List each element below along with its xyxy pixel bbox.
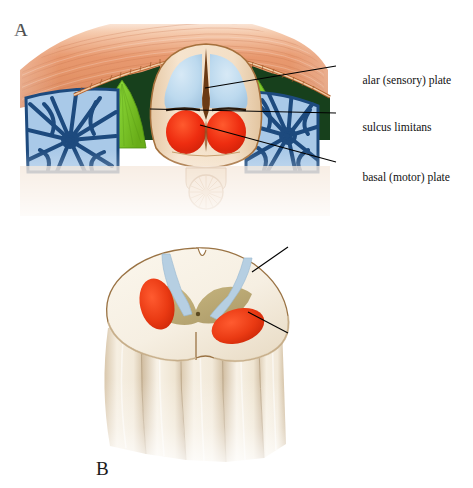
white-matter	[107, 248, 289, 361]
callout-alar-plate: alar (sensory) plate	[345, 60, 451, 101]
leader-posterior-horn	[252, 247, 288, 272]
panel-b-illustration	[0, 228, 473, 488]
basal-plate-left	[166, 110, 206, 154]
central-canal-b	[196, 312, 200, 316]
callout-posterior-horn: posterior horn (sensory)	[292, 462, 357, 488]
neural-tube	[150, 44, 261, 168]
callout-basal-plate: basal (motor) plate	[345, 157, 450, 198]
callout-sulcus-limitans: sulcus limitans	[345, 107, 432, 148]
panel-a: A	[0, 0, 473, 228]
anatomical-figure: A	[0, 0, 473, 488]
callout-sulcus-limitans-line-1: sulcus limitans	[362, 121, 431, 134]
callout-alar-plate-line-1: alar (sensory) plate	[362, 74, 451, 87]
callout-basal-plate-line-1: basal (motor) plate	[362, 171, 450, 184]
cord-cross-section	[107, 248, 289, 361]
panel-b: B posterior horn (sensory) anterior horn…	[0, 228, 473, 488]
panel-b-letter: B	[96, 459, 109, 478]
